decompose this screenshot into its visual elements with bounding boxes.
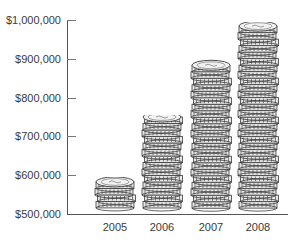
y-tick-mark <box>67 20 76 21</box>
coin-stack-2006 <box>140 115 184 214</box>
coin-stack-2005 <box>93 177 137 214</box>
y-tick-label: $700,000 <box>15 130 61 142</box>
coin-stack-chart: $500,000$600,000$700,000$800,000$900,000… <box>0 0 297 242</box>
coin-stack-2007 <box>189 59 233 215</box>
y-tick-label: $800,000 <box>15 92 61 104</box>
y-tick-label: $900,000 <box>15 53 61 65</box>
y-tick-label: $600,000 <box>15 169 61 181</box>
x-tick-label: 2006 <box>142 221 182 233</box>
x-tick-label: 2005 <box>95 221 135 233</box>
y-tick-label: $1,000,000 <box>6 14 61 26</box>
coin-stack-2008 <box>236 22 280 215</box>
y-tick-label: $500,000 <box>15 208 61 220</box>
y-tick-mark <box>67 59 76 60</box>
x-tick-label: 2007 <box>191 221 231 233</box>
x-tick-label: 2008 <box>238 221 278 233</box>
y-tick-mark <box>67 136 76 137</box>
y-tick-mark <box>67 175 76 176</box>
y-tick-mark <box>67 98 76 99</box>
y-axis <box>67 20 68 215</box>
